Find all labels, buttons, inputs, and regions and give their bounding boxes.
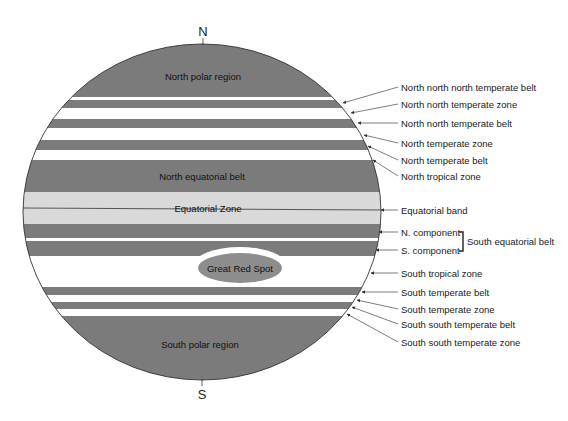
band-group [0,0,568,421]
callout-label: North north north temperate belt [401,82,537,93]
callout-label: South temperate zone [401,304,494,315]
callout-label: South temperate belt [401,287,490,298]
north-pole-label: N [198,24,207,39]
north-polar-region-label: North polar region [165,71,241,82]
equatorial-zone-label: Equatorial Zone [174,203,241,214]
callout-leader-line [343,87,398,103]
north-equatorial-belt-label: North equatorial belt [159,171,245,182]
callout-label: Equatorial band [401,205,468,216]
callout-label: North tropical zone [401,171,481,182]
callout-label: S. component [401,245,460,256]
callout-label: South tropical zone [401,268,482,279]
south-pole-label: S [198,387,207,402]
callout-leader-line [352,307,398,324]
callout-leader-line [347,314,398,342]
jupiter-diagram: N S North polar region North equatorial … [0,0,568,421]
callout-label: N. component [401,227,461,238]
callout-label: North temperate belt [401,155,488,166]
south-equatorial-belt-label: South equatorial belt [467,236,555,247]
callout-label: North north temperate belt [401,118,512,129]
callout-leader-line [357,300,398,309]
callout-leader-line [364,135,398,143]
south-polar-region-label: South polar region [161,339,239,350]
callout-label: South south temperate zone [401,337,520,348]
callout-label: North temperate zone [401,138,493,149]
callout-label: North north temperate zone [401,99,517,110]
callout-leader-line [351,104,398,113]
callout-label: South south temperate belt [401,319,515,330]
band-south-polar-region [0,316,568,421]
callout-leader-line [368,146,398,160]
great-red-spot-label: Great Red Spot [207,263,273,274]
